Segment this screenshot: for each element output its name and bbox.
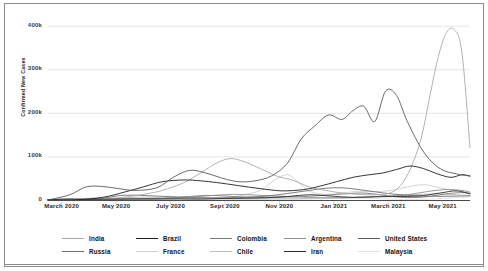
legend-row: RussiaFranceChileIranMalaysia xyxy=(62,245,432,258)
legend-separator xyxy=(5,264,483,265)
legend-item-russia[interactable]: Russia xyxy=(62,245,136,258)
legend-label: Brazil xyxy=(163,235,181,242)
legend-label: United States xyxy=(385,235,427,242)
y-tick-label: 0 xyxy=(8,196,42,202)
x-tick-label: May 2021 xyxy=(429,203,457,209)
x-tick-label: March 2020 xyxy=(44,203,79,209)
legend-item-france[interactable]: France xyxy=(136,245,210,258)
x-tick-label: July 2020 xyxy=(156,203,185,209)
x-tick-label: Nov 2020 xyxy=(265,203,293,209)
legend-item-iran[interactable]: Iran xyxy=(284,245,358,258)
y-axis-label: Confirmed New Cases xyxy=(20,32,26,142)
x-tick-label: May 2020 xyxy=(102,203,130,209)
x-tick-label: March 2021 xyxy=(371,203,406,209)
legend-label: Argentina xyxy=(311,235,342,242)
legend-swatch-icon xyxy=(136,251,158,252)
legend-swatch-icon xyxy=(210,251,232,252)
legend-label: France xyxy=(163,248,185,255)
y-tick-label: 300k xyxy=(8,65,42,71)
legend-item-brazil[interactable]: Brazil xyxy=(136,232,210,245)
legend-swatch-icon xyxy=(358,238,380,239)
legend-item-india[interactable]: India xyxy=(62,232,136,245)
legend-swatch-icon xyxy=(210,238,232,239)
series-line-india xyxy=(48,28,470,200)
chart-plot-area: Confirmed New Cases 0100k200k300k400k Ma… xyxy=(0,0,488,222)
legend-item-chile[interactable]: Chile xyxy=(210,245,284,258)
line-chart-svg xyxy=(0,0,488,222)
x-tick-label: Sept 2020 xyxy=(210,203,240,209)
chart-legend: IndiaBrazilColombiaArgentinaUnited State… xyxy=(62,232,432,260)
y-tick-label: 100k xyxy=(8,152,42,158)
legend-swatch-icon xyxy=(358,251,380,252)
legend-swatch-icon xyxy=(284,251,306,252)
legend-swatch-icon xyxy=(62,251,84,252)
series-lines xyxy=(48,28,470,200)
legend-row: IndiaBrazilColombiaArgentinaUnited State… xyxy=(62,232,432,245)
x-tick-label: Jan 2021 xyxy=(320,203,347,209)
legend-swatch-icon xyxy=(284,238,306,239)
legend-label: Malaysia xyxy=(385,248,412,255)
legend-label: Iran xyxy=(311,248,323,255)
legend-label: Colombia xyxy=(237,235,267,242)
series-line-united-states xyxy=(48,89,470,200)
legend-item-malaysia[interactable]: Malaysia xyxy=(358,245,432,258)
legend-label: Russia xyxy=(89,248,111,255)
gridlines xyxy=(48,26,470,157)
y-tick-label: 200k xyxy=(8,109,42,115)
legend-label: Chile xyxy=(237,248,253,255)
legend-item-argentina[interactable]: Argentina xyxy=(284,232,358,245)
chart-screenshot: Confirmed New Cases 0100k200k300k400k Ma… xyxy=(0,0,488,271)
legend-swatch-icon xyxy=(62,238,84,239)
legend-label: India xyxy=(89,235,104,242)
legend-item-united-states[interactable]: United States xyxy=(358,232,432,245)
legend-swatch-icon xyxy=(136,238,158,239)
legend-item-colombia[interactable]: Colombia xyxy=(210,232,284,245)
y-tick-label: 400k xyxy=(8,22,42,28)
